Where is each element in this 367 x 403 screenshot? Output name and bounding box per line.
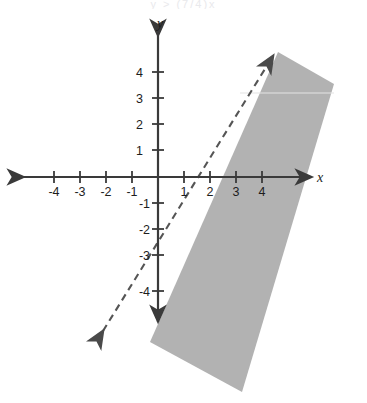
x-tick-label--3: -3 <box>74 185 85 199</box>
cropped-caption: y > (7/4)x <box>0 0 367 9</box>
inequality-graph: y > (7/4)x <box>0 0 367 403</box>
x-tick-label-1: 1 <box>181 185 188 199</box>
x-tick-label-4: 4 <box>259 185 266 199</box>
y-tick-label-2: 2 <box>136 118 143 132</box>
x-tick-label-2: 2 <box>207 185 214 199</box>
y-tick-label--4: -4 <box>139 285 150 299</box>
y-tick-label-4: 4 <box>136 66 143 80</box>
shaded-solution-region <box>150 52 334 392</box>
x-axis-label: x <box>316 170 324 185</box>
y-tick-label--2: -2 <box>139 223 150 237</box>
x-tick-label--2: -2 <box>100 185 111 199</box>
graph-canvas: -4 -3 -2 -1 1 2 3 4 4 3 2 1 -1 -2 -3 -4 … <box>0 0 367 403</box>
y-tick-label--3: -3 <box>139 249 150 263</box>
x-tick-label--1: -1 <box>126 185 137 199</box>
y-axis-label: y <box>155 16 164 31</box>
y-tick-label-1: 1 <box>136 144 143 158</box>
y-tick-label--1: -1 <box>139 197 150 211</box>
y-tick-label-3: 3 <box>136 92 143 106</box>
x-tick-label--4: -4 <box>48 185 59 199</box>
x-tick-label-3: 3 <box>233 185 240 199</box>
